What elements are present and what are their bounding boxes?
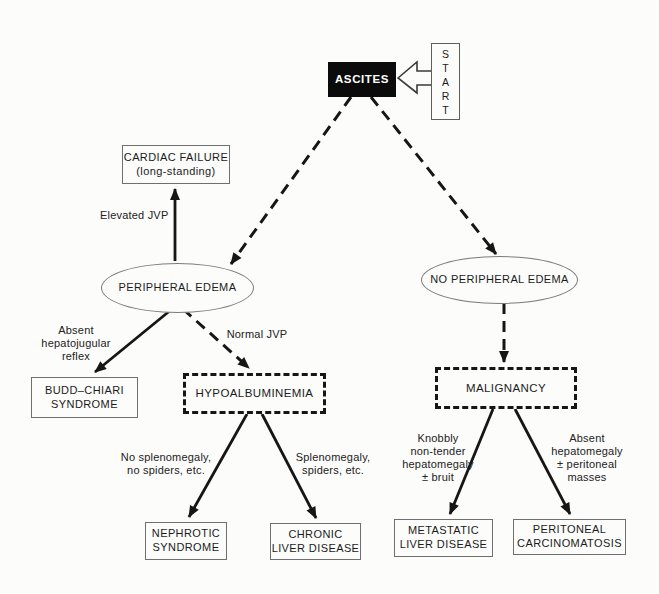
start-letter: R [442,89,450,103]
nephrotic-syndrome-node: NEPHROTIC SYNDROME [145,522,227,560]
edge-ascites-to-peripheral-edema [231,97,351,264]
splenomegaly-label: Splenomegaly, spiders, etc. [295,451,371,477]
peritoneal-carcinomatosis-node: PERITONEAL CARCINOMATOSIS [513,519,626,555]
start-arrow-icon [398,62,432,93]
budd-chiari-node: BUDD–CHIARI SYNDROME [31,377,138,418]
knobbly-hepatomegaly-label: Knobbly non-tender hepatomegaly ± bruit [398,432,478,484]
no-peripheral-edema-node: NO PERIPHERAL EDEMA [421,256,578,304]
peripheral-edema-node: PERIPHERAL EDEMA [101,263,254,313]
absent-hepatomegaly-label: Absent hepatomegaly ± peritoneal masses [546,432,628,484]
elevated-jvp-label: Elevated JVP [100,209,170,222]
ascites-node: ASCITES [328,62,396,97]
start-letter: A [442,75,449,89]
metastatic-liver-disease-node: METASTATIC LIVER DISEASE [394,519,493,557]
start-letter: S [442,47,449,61]
normal-jvp-label: Normal JVP [224,328,290,341]
no-splenomegaly-label: No splenomegaly, no spiders, etc. [120,451,212,477]
ascites-flowchart: S T A R T ASCITES CARDIAC FAILURE (long-… [0,0,659,594]
start-letter: T [442,103,448,117]
cardiac-failure-node: CARDIAC FAILURE (long-standing) [122,145,230,184]
start-letter: T [442,61,448,75]
malignancy-node: MALIGNANCY [435,367,577,409]
hypoalbuminemia-node: HYPOALBUMINEMIA [183,373,326,414]
absent-hepatojugular-reflex-label: Absent hepatojugular reflex [28,324,124,363]
chronic-liver-disease-node: CHRONIC LIVER DISEASE [270,523,361,560]
edge-ascites-to-no-peripheral-edema [371,97,496,254]
start-node: S T A R T [431,43,460,120]
